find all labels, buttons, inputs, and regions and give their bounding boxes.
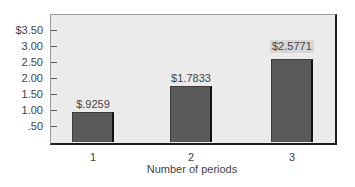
ytick-mark	[51, 110, 57, 111]
ytick-label: .50	[28, 120, 43, 132]
ytick-mark	[51, 94, 57, 95]
x-axis-title: Number of periods	[0, 163, 355, 175]
ytick-mark	[51, 78, 57, 79]
ytick-label: 2.50	[22, 56, 43, 68]
bar-period-1	[72, 112, 114, 142]
ytick-label: 1.00	[22, 104, 43, 116]
bar-period-3	[271, 59, 313, 142]
xtick-label: 2	[181, 151, 201, 163]
ytick-mark	[51, 46, 57, 47]
ytick-label: 1.50	[22, 88, 43, 100]
ytick-mark	[51, 126, 57, 127]
bar-value-label: $.9259	[63, 98, 123, 111]
ytick-label: 2.00	[22, 72, 43, 84]
ytick-label: $3.50	[15, 24, 43, 36]
bar-chart: $3.50 3.00 2.50 2.00 1.50 1.00 .50 $.925…	[0, 0, 355, 187]
bar-value-label-highlighted: $2.5771	[270, 40, 314, 53]
xtick-label: 1	[83, 151, 103, 163]
ytick-mark	[51, 62, 57, 63]
bar-period-2	[170, 86, 212, 142]
bar-value-label: $1.7833	[161, 72, 221, 85]
ytick-mark	[51, 30, 57, 31]
xtick-label: 3	[282, 151, 302, 163]
ytick-label: 3.00	[22, 40, 43, 52]
